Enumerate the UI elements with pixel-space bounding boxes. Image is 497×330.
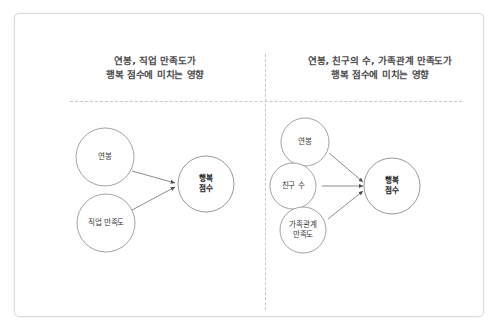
- right-panel-edges: [322, 153, 363, 219]
- node-right-family-satisfaction: [280, 207, 326, 253]
- node-left-job-satisfaction: [77, 194, 135, 252]
- left-panel-edges: [132, 171, 175, 210]
- node-left-salary: [76, 128, 134, 186]
- path-diagram-svg: [15, 14, 485, 318]
- edge-r-familysat-to-happiness: [328, 191, 363, 219]
- node-left-happiness-score: [178, 156, 234, 212]
- left-panel-nodes: [76, 128, 234, 252]
- node-right-happiness-score: [364, 158, 420, 214]
- edge-r-salary-to-happiness: [329, 153, 363, 182]
- node-right-salary: [281, 118, 329, 166]
- slide-canvas: 연봉, 직업 만족도가 행복 점수에 미치는 영향 연봉, 친구의 수, 가족관…: [0, 0, 497, 330]
- right-panel-nodes: [270, 118, 420, 253]
- content-frame: 연봉, 직업 만족도가 행복 점수에 미치는 영향 연봉, 친구의 수, 가족관…: [14, 13, 484, 317]
- edge-salary-to-happiness: [132, 171, 175, 183]
- edge-jobsat-to-happiness: [132, 187, 175, 210]
- node-right-friend-count: [270, 163, 316, 209]
